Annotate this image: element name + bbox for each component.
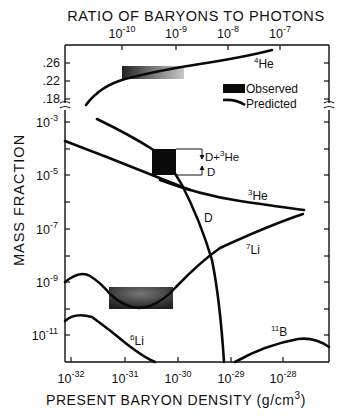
curve-b11 [235,339,329,362]
label-he3: 3He [248,188,268,203]
y-log-tick-label: 10-11 [32,326,58,343]
x-axis-tick-label: 10-29 [218,369,245,386]
legend-predicted-swatch [223,100,245,105]
top-axis-tick-label: 10-9 [165,24,187,41]
y-log-tick-label: 10-9 [36,273,58,290]
top-axis-title: RATIO OF BARYONS TO PHOTONS [67,8,324,24]
legend-predicted-label: Predicted [246,97,297,111]
x-axis-tick-label: 10-31 [112,369,139,386]
y-log-tick-label: 10-3 [36,113,58,130]
legend-observed-label: Observed [246,82,298,96]
y-log-tick-label: 10-7 [36,220,58,237]
label-he4: 4He [254,56,274,71]
top-axis-tick-label: 10-10 [109,24,136,41]
top-axis-tick-label: 10-8 [217,24,239,41]
annotation-d: D [207,166,215,178]
y-axis-title: MASS FRACTION [11,134,27,266]
x-axis-tick-label: 10-32 [58,369,85,386]
label-li7: 7Li [246,242,260,257]
label-li6: 6Li [130,333,144,348]
label-d-curve: D [204,211,213,225]
label-b11: 11B [271,324,287,339]
top-axis-tick-label: 10-7 [269,24,291,41]
x-axis-tick-label: 10-30 [165,369,192,386]
x-axis-title: PRESENT BARYON DENSITY (g/cm3) [46,390,306,408]
annotation-d-he3: D+3He [205,149,239,163]
legend: Observed Predicted [223,82,298,111]
y-upper-tick-label: .18 [43,92,60,106]
curve-li7 [65,214,303,308]
observed-bracket [176,149,204,175]
legend-observed-swatch [223,84,245,93]
bbn-abundance-chart: RATIO OF BARYONS TO PHOTONS MASS FRACTIO… [0,0,353,416]
x-axis-tick-label: 10-28 [270,369,297,386]
y-log-tick-label: 10-5 [36,166,58,183]
y-upper-tick-label: .22 [43,74,60,88]
y-upper-tick-label: .26 [43,56,60,70]
